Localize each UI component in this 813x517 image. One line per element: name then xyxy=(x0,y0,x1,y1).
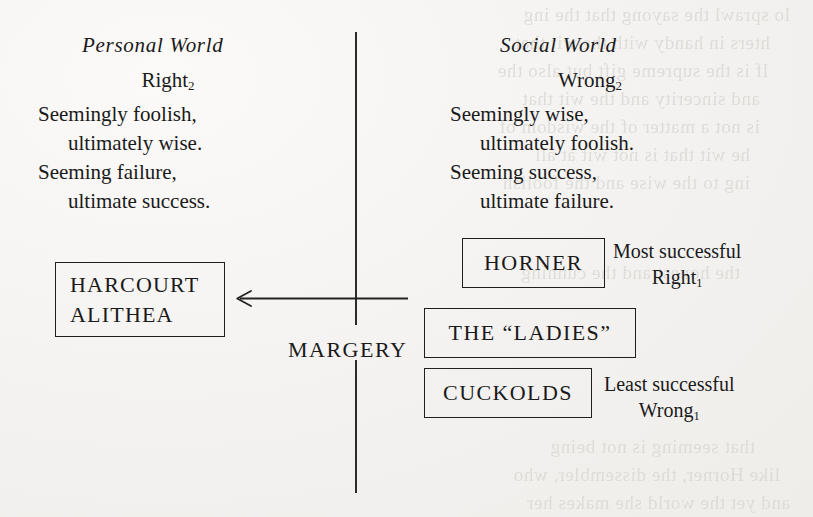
stanza-personal-world: Right2 Seemingly foolish, ultimately wis… xyxy=(38,66,298,216)
axis-vertical-line-lower xyxy=(355,360,357,493)
annotation-least-successful-text: Least successful xyxy=(604,371,735,397)
figure-page: lo sprawl the sayong that the ing hters … xyxy=(0,0,813,517)
stanza-line: Seemingly foolish, xyxy=(38,102,197,126)
box-cuckolds-label: CUCKOLDS xyxy=(443,380,573,406)
annotation-wrong1-text: Wrong xyxy=(639,399,694,421)
box-the-ladies-label: THE “LADIES” xyxy=(449,320,612,346)
heading-personal-world: Personal World xyxy=(82,33,223,58)
stanza-social-world: Wrong2 Seemingly wise, ultimately foolis… xyxy=(450,66,730,216)
box-line-alithea: ALITHEA xyxy=(70,302,174,327)
box-harcourt-alithea[interactable]: HARCOURTALITHEA xyxy=(55,262,225,337)
stanza-line: ultimate success. xyxy=(38,187,298,216)
stanza-line: Seeming failure, xyxy=(38,160,177,184)
axis-label-margery: MARGERY xyxy=(288,337,407,363)
box-line-harcourt: HARCOURT xyxy=(70,272,199,297)
annotation-right1-text: Right xyxy=(652,266,696,288)
stanza-label-subscript: 2 xyxy=(188,78,195,93)
stanza-line: Seeming success, xyxy=(450,160,597,184)
box-harcourt-alithea-label: HARCOURTALITHEA xyxy=(70,270,199,330)
stanza-line: Seemingly wise, xyxy=(450,102,589,126)
annotation-least-successful: Least successful Wrong1 xyxy=(604,371,735,429)
stanza-label-text: Right xyxy=(141,68,188,92)
stanza-label-right2: Right2 xyxy=(38,66,298,100)
box-cuckolds[interactable]: CUCKOLDS xyxy=(424,368,592,418)
annotation-wrong1: Wrong1 xyxy=(604,397,735,429)
stanza-label-wrong2: Wrong2 xyxy=(450,66,730,100)
diagram: Personal World Social World Right2 Seemi… xyxy=(0,0,813,517)
annotation-most-successful-text: Most successful xyxy=(613,238,741,264)
annotation-most-successful: Most successful Right1 xyxy=(613,238,741,296)
axis-vertical-line-upper xyxy=(355,32,357,140)
annotation-wrong1-subscript: 1 xyxy=(694,409,700,423)
stanza-line: ultimate failure. xyxy=(450,187,730,216)
heading-social-world: Social World xyxy=(500,33,617,58)
box-horner-label: HORNER xyxy=(484,250,583,276)
box-the-ladies[interactable]: THE “LADIES” xyxy=(424,308,636,358)
box-horner[interactable]: HORNER xyxy=(462,238,605,288)
stanza-label-subscript: 2 xyxy=(615,78,622,93)
stanza-label-text: Wrong xyxy=(558,68,615,92)
annotation-right1-subscript: 1 xyxy=(696,276,702,290)
arrow-left-icon xyxy=(232,286,412,312)
stanza-line: ultimately wise. xyxy=(38,129,298,158)
annotation-right1: Right1 xyxy=(613,264,741,296)
stanza-line: ultimately foolish. xyxy=(450,129,730,158)
